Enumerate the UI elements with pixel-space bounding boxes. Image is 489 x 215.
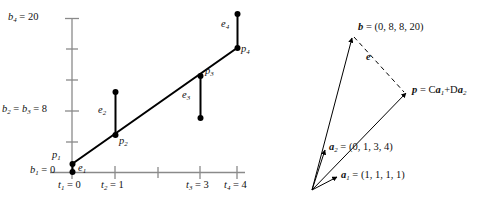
vector-b-arrow xyxy=(312,38,352,190)
point-label-p4: p4 xyxy=(241,44,250,56)
observation-b3 xyxy=(198,115,204,121)
vector-diagram xyxy=(312,37,406,190)
vector-label-b: b = (0, 8, 8, 20) xyxy=(358,22,423,33)
observation-b2 xyxy=(113,89,119,95)
point-label-p2: p2 xyxy=(119,136,128,148)
fitted-point-p3 xyxy=(198,73,204,79)
y-axis-label-b1: b1 = 0 xyxy=(30,165,55,177)
fitted-point-p1 xyxy=(70,161,76,167)
vector-label-a1: a1 = (1, 1, 1, 1) xyxy=(341,170,405,182)
fitted-point-p4 xyxy=(235,45,241,51)
x-axis-label-t4: t4 = 4 xyxy=(224,180,247,192)
x-axis-label-t2: t2 = 1 xyxy=(101,180,124,192)
error-label-e3: e3 xyxy=(182,90,190,102)
vector-label-a2: a2 = (0, 1, 3, 4) xyxy=(329,142,393,154)
vector-label-e: e xyxy=(366,52,371,63)
x-axis-label-t1: t1 = 0 xyxy=(58,180,81,192)
observation-b1 xyxy=(70,169,76,175)
fitted-point-p2 xyxy=(113,132,119,138)
error-label-e1: e1 xyxy=(78,163,86,175)
figure-root: b4 = 20 b2 = b3 = 8 b1 = 0 t1 = 0 t2 = 1… xyxy=(0,0,489,215)
error-label-e4: e4 xyxy=(221,19,229,31)
y-axis-label-b2-b3: b2 = b3 = 8 xyxy=(2,104,47,116)
vector-label-p: p = Ca1+Da2 xyxy=(412,85,466,97)
y-axis-label-b4: b4 = 20 xyxy=(8,12,38,24)
vector-e-dashed xyxy=(354,37,404,92)
error-label-e2: e2 xyxy=(98,105,106,117)
x-axis-label-t3: t3 = 3 xyxy=(186,180,209,192)
error-bars xyxy=(73,14,238,172)
data-points xyxy=(70,11,241,175)
point-label-p3: p3 xyxy=(205,66,214,78)
point-label-p1: p1 xyxy=(52,150,61,162)
left-plot-axes xyxy=(50,18,245,179)
observation-b4 xyxy=(235,11,241,17)
